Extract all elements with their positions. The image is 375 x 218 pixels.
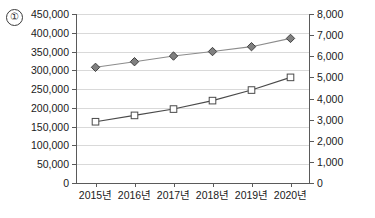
diamond-series-marker [130, 57, 138, 65]
left-axis-label: 450,000 [31, 9, 69, 20]
square-series-marker [248, 87, 255, 94]
left-axis-label: 150,000 [31, 122, 69, 133]
right-tick-mark [310, 141, 314, 142]
x-tick-mark [291, 183, 292, 187]
square-series-marker [92, 118, 99, 125]
x-axis-label: 2020년 [274, 190, 307, 201]
diamond-series-marker [286, 34, 294, 42]
right-axis-label: 4,000 [317, 94, 343, 105]
square-series-marker [287, 74, 294, 81]
left-axis-label: 400,000 [31, 28, 69, 39]
chart-figure: ① 050,000100,000150,000200,000250,000300… [0, 0, 375, 218]
left-tick-mark [72, 183, 76, 184]
right-axis-label: 6,000 [317, 51, 343, 62]
diamond-series-marker [91, 63, 99, 71]
right-tick-mark [310, 77, 314, 78]
x-tick-mark [213, 183, 214, 187]
left-axis-label: 300,000 [31, 65, 69, 76]
right-tick-mark [310, 99, 314, 100]
right-axis-label: 7,000 [317, 30, 343, 41]
right-axis-label: 3,000 [317, 115, 343, 126]
right-axis-label: 2,000 [317, 136, 343, 147]
plot-area: 050,000100,000150,000200,000250,000300,0… [76, 14, 310, 183]
left-axis-label: 100,000 [31, 140, 69, 151]
left-axis-label: 0 [63, 178, 69, 189]
diamond-series-marker [208, 47, 216, 55]
x-tick-mark [96, 183, 97, 187]
x-axis-label: 2017년 [157, 190, 190, 201]
right-tick-mark [310, 183, 314, 184]
gridline [76, 183, 310, 184]
diamond-series-line [96, 38, 291, 67]
item-index-badge: ① [6, 9, 23, 26]
square-series-marker [131, 112, 138, 119]
x-axis-label: 2016년 [118, 190, 151, 201]
right-axis-label: 5,000 [317, 72, 343, 83]
left-axis-label: 200,000 [31, 103, 69, 114]
x-tick-mark [135, 183, 136, 187]
right-axis-label: 0 [317, 178, 323, 189]
x-tick-mark [252, 183, 253, 187]
left-axis-label: 50,000 [37, 159, 69, 170]
diamond-series-marker [169, 52, 177, 60]
right-axis-label: 8,000 [317, 9, 343, 20]
square-series-line [96, 77, 291, 121]
x-axis-label: 2018년 [196, 190, 229, 201]
x-axis-label: 2019년 [235, 190, 268, 201]
left-axis-label: 250,000 [31, 84, 69, 95]
right-axis-label: 1,000 [317, 157, 343, 168]
series-layer [76, 14, 310, 183]
right-tick-mark [310, 14, 314, 15]
diamond-series-marker [247, 42, 255, 50]
square-series-marker [170, 106, 177, 113]
square-series-marker [209, 97, 216, 104]
right-tick-mark [310, 56, 314, 57]
right-tick-mark [310, 162, 314, 163]
left-axis-label: 350,000 [31, 47, 69, 58]
x-tick-mark [174, 183, 175, 187]
x-axis-label: 2015년 [79, 190, 112, 201]
right-tick-mark [310, 120, 314, 121]
right-tick-mark [310, 35, 314, 36]
